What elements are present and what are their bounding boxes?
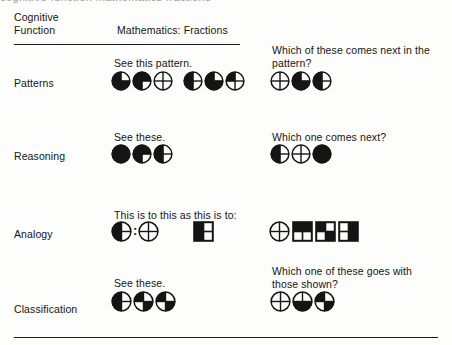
stem-figure-circle-2 [132,144,152,164]
stem-figures-reasoning [111,144,173,164]
answer-option-circle-2[interactable] [291,71,311,91]
table-header: Cognitive Function Mathematics: Fraction… [14,11,438,44]
stem-figure-circle-3 [155,291,176,312]
answer-option-square-4[interactable] [338,221,359,242]
answer-options-analogy [269,221,359,242]
stem-figure-circle-3 [153,71,173,91]
stem-figure-circle-6 [225,71,245,91]
question-prompt-classification: Which one of these goes with those shown… [272,265,412,290]
row-label-patterns: Patterns [14,77,54,89]
answer-option-circle-3[interactable] [314,291,335,312]
header-rule [14,44,240,45]
answer-option-circle-1[interactable] [270,71,290,91]
answer-option-circle-1[interactable] [269,221,290,242]
answer-option-square-3[interactable] [315,221,336,242]
stem-figure-circle-5 [204,71,224,91]
answer-options-classification [270,291,335,312]
clipped-text: cognitive function mathematics fractions [0,0,211,3]
answer-option-circle-2[interactable] [292,291,313,312]
column-header-subject: Mathematics: Fractions [117,24,228,36]
stem-figure-circle-2 [132,71,152,91]
stem-figure-circle-4 [183,71,203,91]
answer-option-circle-3[interactable] [312,144,332,164]
answer-options-patterns [270,71,332,91]
column-header-cognitive-function: Cognitive Function [14,11,59,36]
stem-figure-circle-3 [138,221,159,242]
question-prompt-patterns: Which of these comes next in the pattern… [272,44,430,69]
stem-figure-circle-1 [111,291,132,312]
answer-options-reasoning [270,144,332,164]
stem-prompt-analogy: This is to this as this is to: [114,209,237,222]
stem-figure-circle-3 [153,144,173,164]
stem-figures-classification [111,291,176,312]
stem-prompt-classification: See these. [114,277,165,290]
column-header-line1: Cognitive [14,11,59,24]
clipped-header-artifact: cognitive function mathematics fractions [0,0,452,7]
stem-figure-square-5 [193,221,214,242]
stem-figure-circle-2 [133,291,154,312]
row-label-analogy: Analogy [14,228,53,240]
stem-prompt-reasoning: See these. [114,131,165,144]
row-label-classification: Classification [14,303,77,315]
stem-figures-analogy: : [111,221,214,242]
stem-figure-circle-1 [111,71,131,91]
stem-figure-circle-1 [111,221,132,242]
answer-option-circle-3[interactable] [312,71,332,91]
figure-page: cognitive function mathematics fractions… [0,0,452,345]
bottom-rule [14,337,438,338]
stem-figure-circle-1 [111,144,131,164]
answer-option-square-2[interactable] [292,221,313,242]
stem-prompt-patterns: See this pattern. [114,57,192,70]
row-label-reasoning: Reasoning [14,150,65,162]
answer-option-circle-1[interactable] [270,144,290,164]
question-prompt-reasoning: Which one comes next? [272,131,386,144]
column-header-line2: Function [14,24,59,37]
answer-option-circle-2[interactable] [291,144,311,164]
stem-figures-patterns [111,71,245,91]
answer-option-circle-1[interactable] [270,291,291,312]
